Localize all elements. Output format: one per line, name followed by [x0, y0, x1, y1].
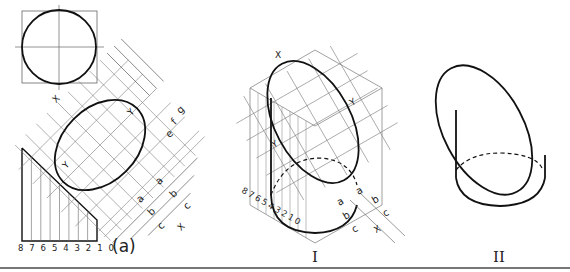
technical-drawing [0, 0, 570, 272]
front-scale-label: 8 7 6 5 4 3 2 1 0 [18, 243, 116, 253]
isometric-view-I [226, 36, 407, 243]
isometric-view-II [416, 49, 552, 210]
caption-view-a: (a) [112, 236, 136, 256]
top-view [15, 5, 104, 90]
iso-axis-label-x: X [275, 50, 281, 60]
auxiliary-view [5, 39, 233, 267]
caption-view-II: II [493, 248, 505, 266]
caption-view-I: I [312, 248, 318, 266]
bottom-divider [0, 267, 570, 269]
